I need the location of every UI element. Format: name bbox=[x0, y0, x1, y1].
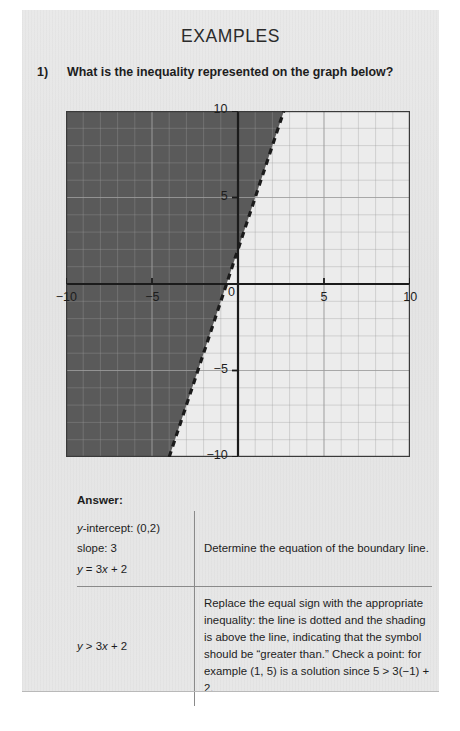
graph-figure: −10−50510−10−5510 bbox=[22, 90, 439, 475]
y-tick-label-10: 10 bbox=[214, 102, 228, 116]
x-tick-label--5: −5 bbox=[145, 290, 159, 304]
worksheet-page: EXAMPLES 1)What is the inequality repres… bbox=[22, 10, 439, 692]
y-tick-label--5: −5 bbox=[214, 362, 228, 376]
x-tick-label-10: 10 bbox=[403, 290, 417, 304]
equation-line: y = 3x + 2 bbox=[77, 559, 190, 579]
coordinate-plane bbox=[66, 111, 410, 457]
answer-step-work: y-intercept: (0,2) slope: 3 y = 3x + 2 bbox=[77, 511, 195, 586]
y-intercept-line: y-intercept: (0,2) bbox=[77, 518, 190, 538]
slope-line: slope: 3 bbox=[77, 538, 190, 558]
table-row: y-intercept: (0,2) slope: 3 y = 3x + 2 D… bbox=[77, 511, 432, 586]
page-bottom-rule bbox=[22, 691, 439, 692]
axes-and-boundary-line bbox=[66, 111, 410, 457]
question-number: 1) bbox=[37, 65, 67, 79]
answer-step-work: y > 3x + 2 bbox=[77, 587, 195, 706]
answer-label: Answer: bbox=[77, 493, 123, 506]
y-tick-label--10: −10 bbox=[206, 448, 227, 462]
table-row: y > 3x + 2 Replace the equal sign with t… bbox=[77, 586, 432, 706]
inequality-line: y > 3x + 2 bbox=[77, 636, 190, 656]
answer-step-description: Determine the equation of the boundary l… bbox=[195, 511, 432, 586]
x-tick-label-origin: 0 bbox=[228, 285, 235, 299]
answer-step-description: Replace the equal sign with the appropri… bbox=[195, 587, 432, 706]
y-tick-label-5: 5 bbox=[221, 189, 228, 203]
x-tick-label-5: 5 bbox=[321, 290, 328, 304]
answer-table: y-intercept: (0,2) slope: 3 y = 3x + 2 D… bbox=[77, 511, 432, 706]
question-row: 1)What is the inequality represented on … bbox=[37, 65, 437, 79]
page-title: EXAMPLES bbox=[22, 26, 439, 47]
x-tick-label--10: −10 bbox=[56, 290, 77, 304]
question-text: What is the inequality represented on th… bbox=[67, 65, 393, 79]
